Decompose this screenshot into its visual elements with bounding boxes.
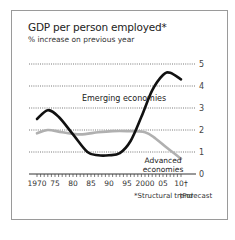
footnote-forecast: †Forecast [179,192,212,200]
x-tick-label: 10† [174,179,188,188]
x-tick-label: 90 [104,179,114,188]
label-advanced-economies-line2: economies [143,165,184,174]
y-tick-label: 3 [199,104,204,113]
y-tick-label: 2 [199,126,204,135]
y-tick-label: 1 [199,148,204,157]
label-advanced-economies: Advanced [144,156,181,165]
x-tick-label: 95 [122,179,132,188]
y-tick-label: 4 [199,82,204,91]
x-tick-label: 05 [158,179,168,188]
x-tick-label: 80 [68,179,78,188]
y-tick-label: 0 [199,170,204,179]
y-tick-label: 5 [199,60,204,69]
x-tick-label: 1970 [27,179,46,188]
x-tick-label: 2000 [135,179,154,188]
label-emerging-economies: Emerging economies [82,94,166,103]
x-tick-label: 85 [86,179,96,188]
x-tick-label: 75 [50,179,60,188]
